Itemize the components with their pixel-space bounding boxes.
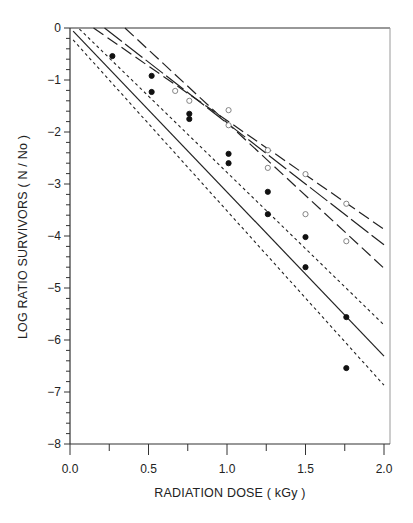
filled-data-point (226, 151, 231, 156)
x-axis-label: RADIATION DOSE ( kGy ) (154, 486, 305, 500)
x-tick-label: 0.0 (62, 462, 79, 476)
open-upper-confidence-line (94, 28, 384, 229)
x-tick-label: 1.0 (219, 462, 236, 476)
filled-data-point (149, 73, 154, 78)
open-data-point (226, 108, 231, 113)
filled-data-point (226, 161, 231, 166)
y-tick-label: −7 (47, 385, 61, 399)
filled-data-point (344, 365, 349, 370)
filled-data-point (187, 116, 192, 121)
filled-regression-line (73, 31, 384, 356)
survival-chart: 0−1−2−3−4−5−6−7−8 0.00.51.01.52.0 RADIAT… (0, 0, 413, 523)
y-axis-ticks: 0−1−2−3−4−5−6−7−8 (47, 21, 70, 451)
filled-upper-confidence-line (79, 29, 384, 325)
y-tick-label: −4 (47, 229, 61, 243)
filled-data-point (265, 189, 270, 194)
open-regression-line (105, 28, 384, 245)
filled-data-point (303, 265, 308, 270)
filled-data-point (265, 212, 270, 217)
filled-data-point (303, 234, 308, 239)
open-data-point (303, 212, 308, 217)
x-tick-label: 1.5 (297, 462, 314, 476)
open-data-point (265, 148, 270, 153)
open-data-point (173, 88, 178, 93)
x-tick-label: 0.5 (140, 462, 157, 476)
x-axis-ticks: 0.00.51.01.52.0 (62, 444, 393, 476)
filled-data-point (344, 315, 349, 320)
y-tick-label: 0 (54, 21, 61, 35)
y-tick-label: −1 (47, 73, 61, 87)
y-tick-label: −6 (47, 333, 61, 347)
y-axis-label: LOG RATIO SURVIVORS ( N / No ) (16, 135, 30, 339)
filled-data-point (110, 53, 115, 58)
y-tick-label: −3 (47, 177, 61, 191)
x-tick-label: 2.0 (376, 462, 393, 476)
regression-lines (73, 28, 384, 385)
filled-lower-confidence-line (73, 40, 384, 385)
y-tick-label: −2 (47, 125, 61, 139)
open-data-point (303, 172, 308, 177)
open-lower-confidence-line (125, 28, 384, 268)
open-data-point (226, 123, 231, 128)
data-points (110, 53, 349, 370)
filled-data-point (149, 89, 154, 94)
filled-data-point (187, 111, 192, 116)
y-tick-label: −8 (47, 437, 61, 451)
open-data-point (187, 98, 192, 103)
open-data-point (344, 201, 349, 206)
open-data-point (265, 165, 270, 170)
open-data-point (344, 239, 349, 244)
y-tick-label: −5 (47, 281, 61, 295)
